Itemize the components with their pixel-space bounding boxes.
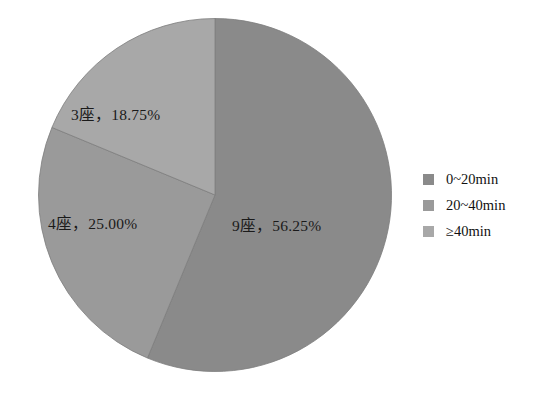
slice-label-20-40min: 4座，25.00% [48, 211, 137, 233]
legend-label-20-40min: 20~40min [446, 197, 505, 214]
legend-item-20-40min[interactable]: 20~40min [423, 192, 529, 218]
legend-swatch-icon-20-40min [423, 200, 434, 211]
pie-svg [38, 18, 392, 372]
legend-item-over-40min[interactable]: ≥40min [423, 218, 529, 244]
legend-label-over-40min: ≥40min [446, 223, 491, 240]
slice-label-over-40min: 3座，18.75% [71, 102, 160, 124]
slice-label-0-20min: 9座，56.25% [232, 213, 321, 235]
pie-chart: 9座，56.25% 4座，25.00% 3座，18.75% 0~20min 20… [0, 0, 533, 394]
legend: 0~20min 20~40min ≥40min [423, 166, 529, 244]
legend-swatch-icon-0-20min [423, 174, 434, 185]
legend-swatch-icon-over-40min [423, 226, 434, 237]
legend-label-0-20min: 0~20min [446, 171, 498, 188]
legend-item-0-20min[interactable]: 0~20min [423, 166, 529, 192]
pie-graphic [38, 18, 392, 372]
